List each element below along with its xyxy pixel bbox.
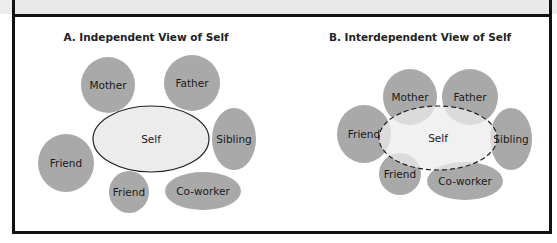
other-label-mother: Mother [89,79,127,91]
self-construal-diagram: A. Independent View of Self MotherFather… [0,0,557,243]
other-label-friend: Friend [50,157,82,169]
panel-a-title: A. Independent View of Self [63,31,229,43]
other-label-sibling: Sibling [216,133,251,145]
panel-b-self-label: Self [428,132,448,144]
panel-a: A. Independent View of Self MotherFather… [38,31,256,213]
other-label-sibling: Sibling [493,133,528,145]
panel-b-title: B. Interdependent View of Self [329,31,512,43]
other-label-co-worker: Co-worker [176,185,230,197]
other-label-friend: Friend [113,186,145,198]
panel-b: B. Interdependent View of Self MotherFat… [329,31,532,200]
other-label-co-worker: Co-worker [438,175,492,187]
other-label-father: Father [175,77,209,89]
panel-a-self-label: Self [141,133,161,145]
other-label-mother: Mother [391,91,429,103]
other-label-friend: Friend [384,168,416,180]
other-label-friend: Friend [348,128,380,140]
other-label-father: Father [453,91,487,103]
